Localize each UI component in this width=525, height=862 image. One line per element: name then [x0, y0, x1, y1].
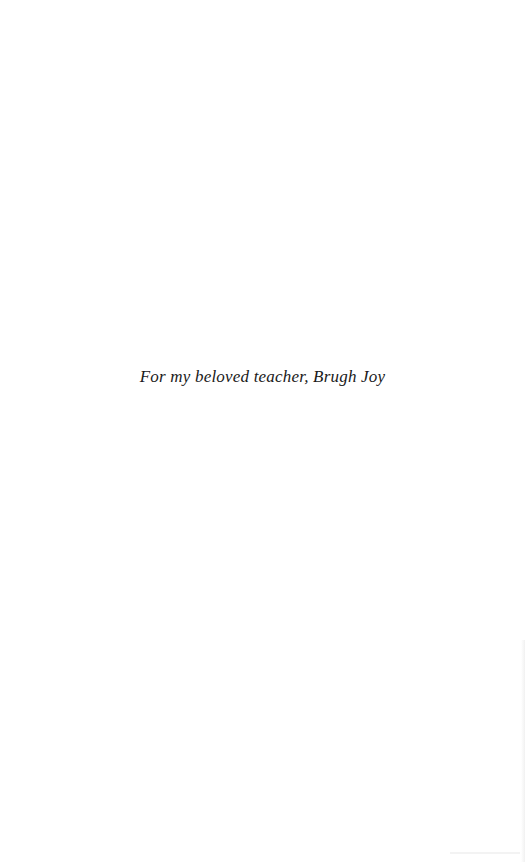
page-bottom-shadow — [450, 852, 520, 854]
page-edge-shadow — [521, 640, 525, 862]
dedication-text: For my beloved teacher, Brugh Joy — [0, 366, 525, 388]
book-page: For my beloved teacher, Brugh Joy — [0, 0, 525, 862]
